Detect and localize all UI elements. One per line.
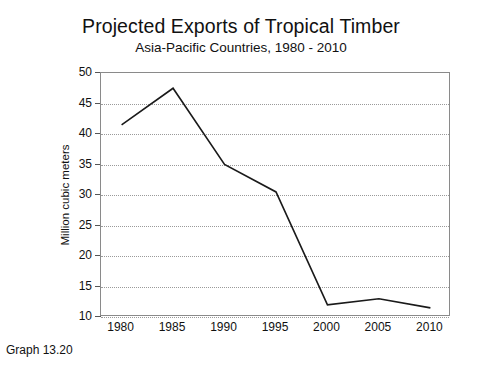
series-polyline [122,88,431,308]
x-axis-tick-label: 2010 [416,320,443,334]
y-axis-tick-label: 45 [79,97,92,109]
x-axis-tick-labels: 1980198519901995200020052010 [100,320,450,338]
y-axis-tick-label: 40 [79,127,92,139]
page-title: Projected Exports of Tropical Timber [0,14,482,38]
gridline [101,317,449,318]
y-axis-tick-label: 25 [79,219,92,231]
x-axis-tick-label: 2000 [313,320,340,334]
x-axis-tick-label: 2005 [365,320,392,334]
line-series [101,73,451,317]
y-axis-tick-label: 20 [79,249,92,261]
x-axis-tick-label: 1990 [210,320,237,334]
plot-area [100,72,450,316]
figure-caption: Graph 13.20 [6,343,73,357]
chart-subtitle: Asia-Pacific Countries, 1980 - 2010 [0,39,482,57]
x-axis-tick-label: 1980 [107,320,134,334]
y-axis-tick-label: 10 [79,310,92,322]
x-axis-tick-label: 1985 [159,320,186,334]
x-axis-tick-label: 1995 [262,320,289,334]
chart-title-block: Projected Exports of Tropical Timber Asi… [0,14,482,57]
y-axis-tick-labels: 101520253035404550 [58,72,92,316]
chart-figure: Projected Exports of Tropical Timber Asi… [0,0,482,369]
y-axis-tick-label: 30 [79,188,92,200]
y-axis-tick-label: 35 [79,158,92,170]
y-axis-tick-label: 50 [79,66,92,78]
y-axis-tick-label: 15 [79,280,92,292]
